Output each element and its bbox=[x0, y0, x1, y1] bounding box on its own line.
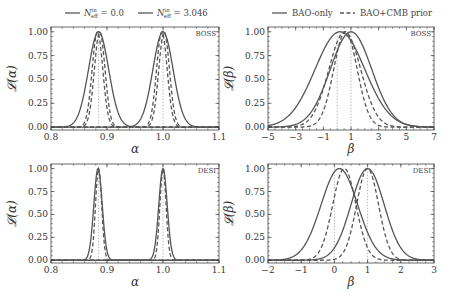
x-tick-label: 1 bbox=[348, 132, 354, 142]
y-tick-label: 1.00 bbox=[245, 164, 265, 174]
series-line bbox=[51, 32, 219, 127]
y-axis-label: 𝓛(β) bbox=[222, 201, 236, 227]
series-line bbox=[51, 32, 219, 127]
series-line bbox=[51, 169, 219, 261]
y-tick-label: 0.00 bbox=[28, 122, 48, 132]
y-tick-label: 1.00 bbox=[245, 27, 265, 37]
x-tick-label: −5 bbox=[261, 132, 275, 142]
series-line bbox=[51, 169, 219, 261]
series-line bbox=[51, 32, 219, 127]
legend-label-neff-3046: Nineff = 3.046 bbox=[156, 7, 208, 19]
axes-frame bbox=[51, 27, 219, 130]
x-tick-label: 0.8 bbox=[44, 132, 59, 142]
x-tick-label: 1.0 bbox=[156, 265, 171, 275]
legend-left: Nineff = 0.0 Nineff = 3.046 bbox=[65, 7, 208, 19]
y-axis-label: 𝓛(β) bbox=[222, 66, 236, 92]
panel-bottom-right: −2−101230.000.250.500.751.00β𝓛(β)DESI bbox=[222, 164, 437, 289]
y-tick-label: 0.75 bbox=[245, 187, 265, 197]
x-tick-label: 0.8 bbox=[44, 265, 59, 275]
panel-top-left: 0.80.91.01.10.000.250.500.751.00α𝓛(α)BOS… bbox=[5, 27, 226, 156]
x-tick-label: 0.9 bbox=[100, 132, 115, 142]
x-tick-label: 3 bbox=[431, 265, 437, 275]
legend-label-bao-cmb: BAO+CMB prior bbox=[360, 8, 433, 18]
x-axis-label: β bbox=[347, 142, 355, 156]
legend-label-bao-only: BAO-only bbox=[292, 8, 333, 18]
axes-frame bbox=[51, 164, 219, 263]
x-axis-label: α bbox=[131, 142, 139, 156]
y-tick-label: 0.75 bbox=[28, 51, 48, 61]
x-tick-label: −2 bbox=[261, 265, 274, 275]
x-tick-label: −1 bbox=[295, 265, 308, 275]
y-tick-label: 0.25 bbox=[28, 98, 48, 108]
x-tick-label: 5 bbox=[403, 132, 409, 142]
y-tick-label: 0.50 bbox=[28, 74, 48, 84]
panel-top-right: −5−3−113570.000.250.500.751.00β𝓛(β)BOSS bbox=[222, 27, 437, 156]
x-axis-label: β bbox=[347, 275, 355, 289]
x-tick-label: 1.1 bbox=[212, 132, 226, 142]
y-tick-label: 0.50 bbox=[245, 74, 265, 84]
x-tick-label: −3 bbox=[289, 132, 303, 142]
y-tick-label: 0.50 bbox=[245, 209, 265, 219]
y-tick-label: 0.00 bbox=[245, 122, 265, 132]
series-line bbox=[51, 32, 219, 127]
series-line bbox=[51, 32, 219, 127]
y-tick-label: 0.50 bbox=[28, 209, 48, 219]
axes-frame bbox=[268, 164, 434, 263]
y-tick-label: 0.25 bbox=[245, 98, 265, 108]
y-tick-label: 0.75 bbox=[28, 187, 48, 197]
y-tick-label: 0.75 bbox=[245, 51, 265, 61]
series-line bbox=[51, 32, 219, 127]
x-tick-label: 1.1 bbox=[212, 265, 226, 275]
y-tick-label: 0.25 bbox=[28, 232, 48, 242]
x-tick-label: 1.0 bbox=[156, 132, 171, 142]
x-tick-label: 1 bbox=[365, 265, 371, 275]
x-tick-label: 0 bbox=[332, 265, 338, 275]
series-line bbox=[51, 169, 219, 261]
legend-right: BAO-only BAO+CMB prior bbox=[272, 8, 433, 18]
x-tick-label: 3 bbox=[376, 132, 382, 142]
y-tick-label: 0.25 bbox=[245, 232, 265, 242]
y-tick-label: 0.00 bbox=[245, 255, 265, 265]
y-axis-label: 𝓛(α) bbox=[5, 65, 19, 92]
x-tick-label: 2 bbox=[398, 265, 404, 275]
panel-bottom-left: 0.80.91.01.10.000.250.500.751.00α𝓛(α)DES… bbox=[5, 164, 226, 289]
figure: Nineff = 0.0 Nineff = 3.046 BAO-only BAO… bbox=[0, 0, 453, 299]
x-tick-label: −1 bbox=[317, 132, 330, 142]
y-tick-label: 0.00 bbox=[28, 255, 48, 265]
x-tick-label: 7 bbox=[431, 132, 437, 142]
series-line bbox=[51, 169, 219, 261]
panel-tag: DESI bbox=[198, 167, 217, 175]
y-tick-label: 1.00 bbox=[28, 27, 48, 37]
panel-tag: DESI bbox=[413, 167, 432, 175]
x-tick-label: 0.9 bbox=[100, 265, 115, 275]
legend-label-neff-0: Nineff = 0.0 bbox=[83, 7, 124, 19]
y-tick-label: 1.00 bbox=[28, 164, 48, 174]
x-axis-label: α bbox=[131, 275, 139, 289]
panel-tag: BOSS bbox=[411, 30, 432, 38]
panel-tag: BOSS bbox=[196, 30, 217, 38]
series-line bbox=[268, 169, 434, 261]
panels: 0.80.91.01.10.000.250.500.751.00α𝓛(α)BOS… bbox=[5, 27, 437, 289]
y-axis-label: 𝓛(α) bbox=[5, 200, 19, 227]
